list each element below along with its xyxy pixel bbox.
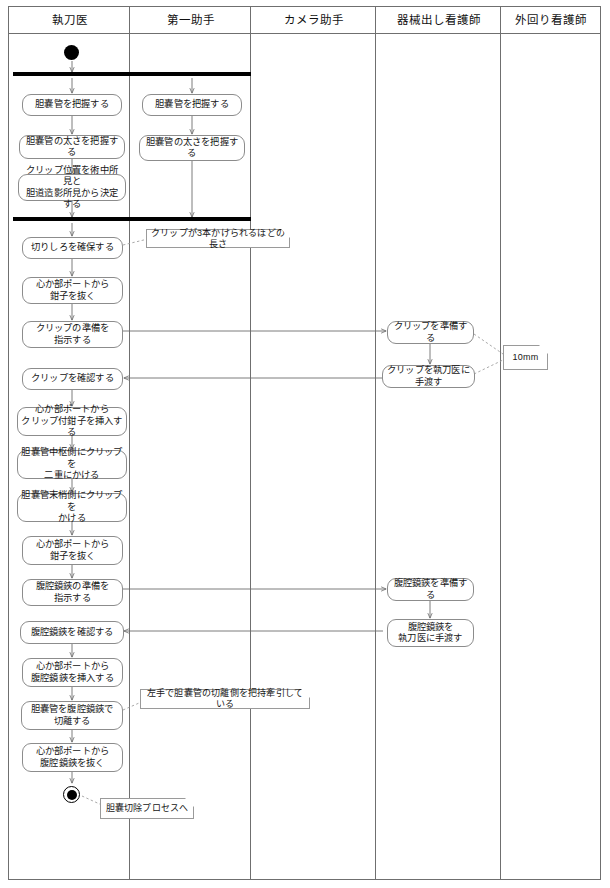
activity-label-line1: 胆嚢管中枢側にクリップを (21, 447, 122, 469)
lane-header-scrub-nurse: 器械出し看護師 (376, 7, 501, 33)
activity-node[interactable]: 胆嚢管を把握する (142, 94, 242, 116)
note-box: クリップが3本かけられるほどの長さ (146, 229, 290, 248)
activity-label: 胆嚢管の太さを把握する (143, 137, 241, 160)
activity-label: クリップを確認する (26, 373, 119, 385)
activity-node[interactable]: クリップを準備する (387, 321, 474, 344)
activity-label: 胆嚢管を把握する (146, 99, 238, 111)
activity-label-block: 心か部ポートから 腹腔鏡鋏を挿入する (26, 661, 119, 684)
activity-node[interactable]: 胆嚢管末梢側にクリップを かける (17, 493, 127, 522)
lane-header-first-assistant: 第一助手 (130, 7, 251, 33)
activity-label-line2: 指示する (54, 593, 91, 603)
activity-node[interactable]: 腹腔鏡鋏を確認する (20, 621, 124, 644)
note-fold-icon (185, 798, 194, 807)
activity-node[interactable]: 腹腔鏡鋏を準備する (387, 578, 474, 601)
note-box: 胆嚢切除プロセスへ (100, 798, 194, 819)
activity-label-line2: クリップ付鉗子を挿入する (21, 416, 122, 438)
activity-label-line2: 鉗子を抜く (50, 551, 96, 561)
activity-label-line2: 切離する (54, 716, 91, 726)
activity-label-line1: クリップの準備を (36, 323, 110, 333)
final-node-core (67, 790, 77, 800)
lane-column-camera-assistant (251, 7, 376, 879)
activity-label: 胆嚢管の太さを把握する (23, 136, 121, 159)
activity-label-line2: 胆道造影所見から決定する (26, 188, 118, 210)
activity-label-line1: 心か部ポートから (36, 279, 110, 289)
activity-node[interactable]: 胆嚢管中枢側にクリップを 二重にかける (17, 450, 127, 479)
activity-node[interactable]: クリップを執刀医に手渡す (382, 365, 475, 388)
activity-label-block: クリップ位置を術中所見と 胆道造影所見から決定する (22, 165, 122, 211)
activity-label-line1: 心か部ポートから (36, 661, 110, 671)
activity-label-block: 心か部ポートから クリップ付鉗子を挿入する (21, 404, 123, 439)
activity-label-block: 胆嚢管を腹腔鏡鋏で 切離する (25, 704, 119, 727)
activity-label-line1: 心か部ポートから (35, 404, 109, 414)
activity-node[interactable]: 心か部ポートから クリップ付鉗子を挿入する (17, 407, 127, 436)
activity-label-line1: 腹腔鏡鋏を (408, 622, 454, 632)
note-box: 左手で胆嚢管の切離側を把持牽引している (140, 689, 310, 709)
activity-label: 胆嚢管を把握する (26, 99, 118, 111)
activity-label-line1: 心か部ポートから (36, 539, 110, 549)
activity-label-block: 心か部ポートから 鉗子を抜く (26, 279, 119, 302)
activity-node[interactable]: 心か部ポートから 腹腔鏡鋏を抜く (22, 743, 123, 772)
activity-label-block: 胆嚢管末梢側にクリップを かける (21, 490, 123, 525)
activity-node[interactable]: 胆嚢管を把握する (22, 94, 122, 116)
activity-node[interactable]: 腹腔鏡鋏を 執刀医に手渡す (387, 619, 474, 647)
activity-label-block: クリップの準備を 指示する (26, 323, 119, 346)
activity-label-block: 腹腔鏡鋏の準備を 指示する (26, 581, 119, 604)
activity-label-line2: 二重にかける (44, 470, 99, 480)
activity-label-line1: 胆嚢管末梢側にクリップを (21, 490, 122, 512)
note-text: クリップが3本かけられるほどの長さ (151, 228, 285, 250)
note-text: 左手で胆嚢管の切離側を把持牽引している (145, 688, 305, 710)
activity-node[interactable]: クリップを確認する (22, 368, 123, 390)
activity-label-line2: 指示する (54, 335, 91, 345)
lane-column-circulating-nurse (501, 7, 600, 879)
activity-label-line1: クリップ位置を術中所見と (26, 165, 118, 187)
activity-label-line1: 腹腔鏡鋏の準備を (36, 581, 110, 591)
note-fold-icon (281, 229, 290, 238)
note-fold-icon (301, 689, 310, 698)
activity-label-block: 胆嚢管中枢側にクリップを 二重にかける (21, 447, 123, 482)
activity-label-block: 腹腔鏡鋏を 執刀医に手渡す (391, 622, 470, 645)
lane-header-circulating-nurse: 外回り看護師 (501, 7, 600, 33)
lane-header-surgeon: 執刀医 (9, 7, 130, 33)
activity-node[interactable]: 胆嚢管の太さを把握する (139, 135, 245, 161)
activity-node[interactable]: クリップの準備を 指示する (22, 321, 123, 348)
activity-node[interactable]: 腹腔鏡鋏の準備を 指示する (22, 579, 123, 606)
activity-label: 腹腔鏡鋏を確認する (24, 627, 120, 639)
activity-label: クリップを準備する (391, 321, 470, 344)
note-fold-icon (539, 345, 548, 354)
activity-node[interactable]: 心か部ポートから 鉗子を抜く (22, 277, 123, 304)
activity-label-line2: 腹腔鏡鋏を抜く (40, 758, 104, 768)
note-text: 胆嚢切除プロセスへ (106, 803, 189, 814)
activity-label: 腹腔鏡鋏を準備する (391, 578, 470, 601)
activity-node[interactable]: 心か部ポートから 腹腔鏡鋏を挿入する (22, 658, 123, 687)
activity-diagram-canvas: 執刀医 第一助手 カメラ助手 器械出し看護師 外回り看護師 (0, 0, 610, 888)
lane-column-scrub-nurse (376, 7, 501, 879)
activity-label-line2: 腹腔鏡鋏を挿入する (31, 673, 114, 683)
lane-header-camera-assistant: カメラ助手 (251, 7, 376, 33)
activity-label: 切りしろを確保する (26, 242, 119, 254)
note-text: 10mm (513, 352, 539, 363)
activity-label: クリップを執刀医に手渡す (386, 365, 471, 388)
activity-node[interactable]: 心か部ポートから 鉗子を抜く (22, 536, 123, 565)
activity-label-line1: 胆嚢管を腹腔鏡鋏で (31, 704, 114, 714)
initial-node (64, 45, 79, 60)
activity-label-line2: 鉗子を抜く (50, 291, 96, 301)
activity-label-block: 心か部ポートから 腹腔鏡鋏を抜く (26, 746, 119, 769)
activity-node[interactable]: クリップ位置を術中所見と 胆道造影所見から決定する (18, 174, 126, 201)
activity-node[interactable]: 胆嚢管の太さを把握する (19, 135, 125, 159)
activity-label-line1: 心か部ポートから (36, 746, 110, 756)
note-box: 10mm (503, 345, 548, 370)
join-bar (13, 217, 251, 221)
activity-label-line2: かける (58, 513, 86, 523)
activity-label-block: 心か部ポートから 鉗子を抜く (26, 539, 119, 562)
activity-node[interactable]: 切りしろを確保する (22, 237, 123, 259)
activity-node[interactable]: 胆嚢管を腹腔鏡鋏で 切離する (21, 701, 123, 730)
activity-label-line2: 執刀医に手渡す (398, 633, 462, 643)
fork-bar (13, 72, 251, 76)
